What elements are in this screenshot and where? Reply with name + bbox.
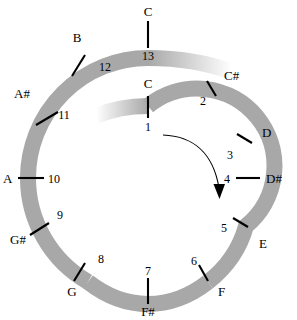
spiral-figure: C 1 C# 2 D 3 D# 4 E 5 F 6 F# 7 G 8 G# 9 … [0,0,297,320]
note-label-12: B [73,30,82,45]
note-label-1: C [144,76,153,91]
step-number-7: 7 [145,264,151,278]
step-number-5: 5 [221,221,227,235]
note-label-5: E [259,236,267,251]
tick-step-3 [237,134,252,143]
note-label-11: A# [14,86,30,101]
step-number-6: 6 [191,254,197,268]
note-label-9: G# [10,232,26,247]
step-number-9: 9 [57,208,63,222]
step-number-12: 12 [99,60,111,74]
step-number-3: 3 [227,148,233,162]
note-label-4: D# [266,171,282,186]
note-label-13: C [144,4,153,19]
step-number-1: 1 [145,120,151,134]
note-label-6: F [218,284,225,299]
step-number-8: 8 [98,252,104,266]
note-label-10: A [3,171,13,186]
step-number-2: 2 [200,94,206,108]
direction-arrow-curve [163,135,219,188]
spiral-diagram-canvas: C 1 C# 2 D 3 D# 4 E 5 F 6 F# 7 G 8 G# 9 … [0,0,297,320]
spiral-outer-turn [28,58,148,282]
note-label-2: C# [224,68,240,83]
note-label-8: G [67,284,76,299]
step-labels: C 1 C# 2 D 3 D# 4 E 5 F 6 F# 7 G 8 G# 9 … [3,4,282,319]
step-number-13: 13 [142,49,154,63]
step-number-10: 10 [48,172,60,186]
note-label-7: F# [141,304,155,319]
spiral-inner-fade-start [96,106,148,116]
direction-arrow [163,135,225,199]
spiral-band [28,58,274,304]
spiral-inner-turn [148,89,274,282]
step-number-4: 4 [224,172,230,186]
direction-arrow-head [214,184,226,199]
spiral-outer-fade-end [148,58,232,72]
note-label-3: D [262,125,271,140]
step-number-11: 11 [58,108,70,122]
